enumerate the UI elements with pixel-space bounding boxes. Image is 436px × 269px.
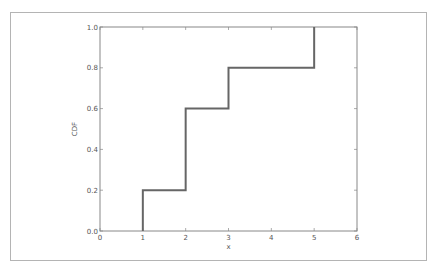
y-axis-label: CDF <box>71 122 79 136</box>
axis-ticks: 01234560.00.20.40.60.81.0 <box>87 24 360 243</box>
x-tick-label: 0 <box>98 234 102 242</box>
x-axis-label: x <box>226 243 230 251</box>
y-tick-label: 0.0 <box>87 228 98 236</box>
step-series <box>143 27 314 231</box>
y-tick-label: 0.8 <box>87 64 98 72</box>
x-tick-label: 5 <box>312 234 316 242</box>
x-tick-label: 6 <box>355 234 360 242</box>
y-tick-label: 1.0 <box>87 24 98 32</box>
y-tick-label: 0.6 <box>87 105 99 113</box>
cdf-chart: 01234560.00.20.40.60.81.0 x CDF <box>0 0 436 269</box>
x-tick-label: 1 <box>141 234 145 242</box>
x-tick-label: 2 <box>183 234 187 242</box>
axes-box <box>100 27 357 231</box>
plot-area <box>100 27 357 231</box>
y-tick-label: 0.4 <box>87 146 99 154</box>
x-tick-label: 4 <box>269 234 274 242</box>
y-tick-label: 0.2 <box>87 187 98 195</box>
x-tick-label: 3 <box>226 234 230 242</box>
cdf-step-line <box>143 27 314 231</box>
